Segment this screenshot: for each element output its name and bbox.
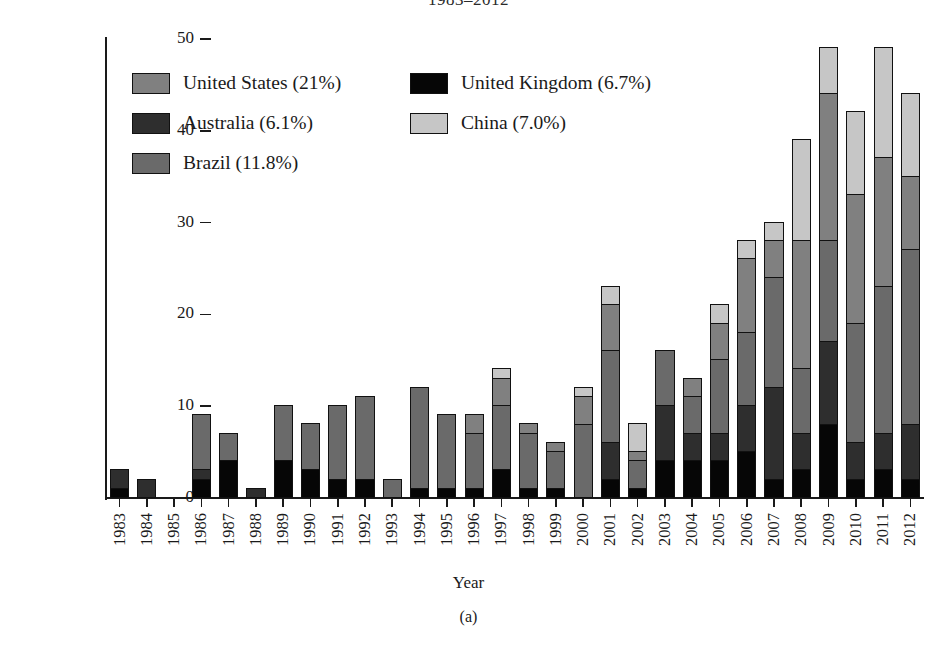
bar-segment-united-kingdom[interactable] — [655, 460, 674, 498]
bar-segment-united-states[interactable] — [519, 423, 538, 433]
bar-segment-united-states[interactable] — [846, 194, 865, 324]
bar-column[interactable]: 2004 — [683, 39, 702, 498]
bar-segment-australia[interactable] — [110, 469, 129, 488]
bar-segment-united-kingdom[interactable] — [519, 488, 538, 498]
bar-segment-united-states[interactable] — [492, 378, 511, 407]
bar-segment-united-states[interactable] — [546, 442, 565, 452]
bar-segment-brazil[interactable] — [301, 423, 320, 470]
bar-segment-united-kingdom[interactable] — [710, 460, 729, 498]
bar-segment-united-kingdom[interactable] — [355, 479, 374, 498]
bar-column[interactable]: 2007 — [764, 39, 783, 498]
bar-column[interactable]: 2012 — [901, 39, 920, 498]
bar-column[interactable]: 2003 — [655, 39, 674, 498]
bar-segment-brazil[interactable] — [328, 405, 347, 480]
bar-segment-brazil[interactable] — [465, 433, 484, 489]
bar-column[interactable]: 2002 — [628, 39, 647, 498]
bar-segment-china[interactable] — [737, 240, 756, 259]
bar-segment-united-kingdom[interactable] — [110, 488, 129, 498]
bar-segment-united-states[interactable] — [628, 451, 647, 461]
bar-segment-united-kingdom[interactable] — [219, 460, 238, 498]
bar-segment-united-kingdom[interactable] — [737, 451, 756, 498]
bar-column[interactable]: 1991 — [328, 39, 347, 498]
bar-segment-united-states[interactable] — [601, 304, 620, 351]
legend-item[interactable]: China (7.0%) — [410, 108, 566, 138]
bar-segment-brazil[interactable] — [519, 433, 538, 489]
bar-segment-united-kingdom[interactable] — [819, 423, 838, 498]
bar-segment-china[interactable] — [846, 111, 865, 195]
bar-segment-united-kingdom[interactable] — [465, 488, 484, 498]
legend-item[interactable]: United Kingdom (6.7%) — [410, 68, 651, 98]
bar-segment-brazil[interactable] — [764, 277, 783, 388]
bar-segment-australia[interactable] — [192, 469, 211, 479]
bar-segment-brazil[interactable] — [737, 332, 756, 407]
bar-column[interactable]: 2010 — [846, 39, 865, 498]
bar-segment-united-states[interactable] — [874, 157, 893, 287]
bar-segment-united-states[interactable] — [792, 240, 811, 370]
bar-segment-united-states[interactable] — [465, 414, 484, 433]
bar-segment-united-kingdom[interactable] — [874, 469, 893, 498]
bar-segment-australia[interactable] — [846, 442, 865, 480]
bar-segment-australia[interactable] — [601, 442, 620, 480]
bar-segment-brazil[interactable] — [874, 286, 893, 434]
bar-segment-australia[interactable] — [737, 405, 756, 452]
bar-segment-united-kingdom[interactable] — [192, 479, 211, 498]
bar-segment-united-kingdom[interactable] — [901, 479, 920, 498]
bar-segment-united-kingdom[interactable] — [492, 469, 511, 498]
bar-column[interactable]: 1983 — [110, 39, 129, 498]
bar-segment-brazil[interactable] — [383, 479, 402, 498]
bar-segment-united-kingdom[interactable] — [274, 460, 293, 498]
bar-segment-china[interactable] — [628, 423, 647, 452]
bar-segment-australia[interactable] — [874, 433, 893, 471]
bar-segment-australia[interactable] — [137, 479, 156, 498]
bar-segment-brazil[interactable] — [274, 405, 293, 461]
bar-segment-united-states[interactable] — [764, 240, 783, 278]
bar-column[interactable]: 2008 — [792, 39, 811, 498]
bar-column[interactable]: 1993 — [383, 39, 402, 498]
bar-segment-united-kingdom[interactable] — [601, 479, 620, 498]
bar-segment-brazil[interactable] — [901, 249, 920, 425]
bar-segment-australia[interactable] — [792, 433, 811, 471]
bar-column[interactable]: 2009 — [819, 39, 838, 498]
bar-segment-united-states[interactable] — [901, 176, 920, 251]
bar-segment-brazil[interactable] — [437, 414, 456, 489]
bar-segment-united-states[interactable] — [710, 323, 729, 361]
legend-item[interactable]: United States (21%) — [132, 68, 341, 98]
bar-column[interactable]: 2000 — [574, 39, 593, 498]
bar-segment-australia[interactable] — [683, 433, 702, 462]
bar-segment-united-states[interactable] — [574, 396, 593, 425]
bar-segment-brazil[interactable] — [601, 350, 620, 443]
bar-segment-brazil[interactable] — [628, 460, 647, 489]
bar-segment-brazil[interactable] — [192, 414, 211, 470]
bar-column[interactable]: 2001 — [601, 39, 620, 498]
bar-segment-brazil[interactable] — [492, 405, 511, 470]
bar-segment-brazil[interactable] — [792, 368, 811, 433]
bar-segment-brazil[interactable] — [574, 423, 593, 498]
bar-segment-united-kingdom[interactable] — [437, 488, 456, 498]
bar-segment-united-kingdom[interactable] — [328, 479, 347, 498]
bar-segment-united-kingdom[interactable] — [764, 479, 783, 498]
bar-segment-australia[interactable] — [901, 423, 920, 479]
bar-segment-united-states[interactable] — [819, 93, 838, 241]
bar-segment-united-kingdom[interactable] — [846, 479, 865, 498]
bar-segment-china[interactable] — [574, 387, 593, 397]
bar-segment-china[interactable] — [874, 47, 893, 158]
legend-item[interactable]: Brazil (11.8%) — [132, 148, 298, 178]
bar-column[interactable]: 2011 — [874, 39, 893, 498]
bar-segment-brazil[interactable] — [219, 433, 238, 462]
bar-segment-united-kingdom[interactable] — [792, 469, 811, 498]
bar-segment-brazil[interactable] — [710, 359, 729, 434]
bar-segment-brazil[interactable] — [683, 396, 702, 434]
bar-segment-united-states[interactable] — [683, 378, 702, 397]
bar-column[interactable]: 1992 — [355, 39, 374, 498]
bar-segment-united-states[interactable] — [737, 258, 756, 333]
bar-segment-united-kingdom[interactable] — [410, 488, 429, 498]
bar-segment-brazil[interactable] — [819, 240, 838, 342]
bar-segment-brazil[interactable] — [355, 396, 374, 480]
bar-segment-united-kingdom[interactable] — [628, 488, 647, 498]
bar-segment-china[interactable] — [901, 93, 920, 177]
bar-segment-australia[interactable] — [764, 387, 783, 480]
bar-segment-brazil[interactable] — [546, 451, 565, 489]
bar-segment-brazil[interactable] — [655, 350, 674, 406]
bar-column[interactable]: 2005 — [710, 39, 729, 498]
bar-segment-brazil[interactable] — [846, 322, 865, 442]
